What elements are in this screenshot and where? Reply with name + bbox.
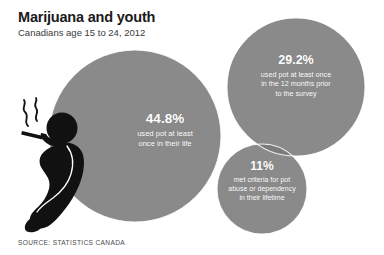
bubble-past-year [227,18,365,156]
chart-header: Marijuana and youth Canadians age 15 to … [18,10,155,38]
smoking-person-silhouette-icon [10,88,102,233]
source-credit: SOURCE: STATISTICS CANADA [18,239,125,246]
cigarette-icon [21,131,43,140]
infographic-canvas: Marijuana and youth Canadians age 15 to … [0,0,384,255]
silhouette-body [30,143,84,229]
smoke-wisp-icon [24,98,38,126]
page-title: Marijuana and youth [18,10,155,26]
page-subtitle: Canadians age 15 to 24, 2012 [18,28,155,38]
